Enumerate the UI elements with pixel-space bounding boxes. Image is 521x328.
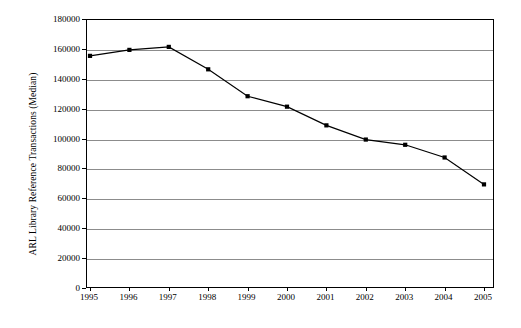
x-axis-tick-label: 2000	[266, 293, 306, 302]
data-point-marker	[88, 54, 92, 58]
y-axis-tick-label: 20000	[32, 254, 80, 263]
x-axis-tick-label: 2002	[345, 293, 385, 302]
chart-figure: ARL Library Reference Transactions (Medi…	[0, 0, 521, 328]
x-axis-tick-label: 1998	[187, 293, 227, 302]
x-axis-tick-label: 2004	[424, 293, 464, 302]
x-axis-tick-label: 2001	[305, 293, 345, 302]
y-axis-tick-label: 40000	[32, 224, 80, 233]
data-point-marker	[285, 105, 289, 109]
y-axis-tick-labels: 0200004000060000800001000001200001400001…	[30, 0, 80, 328]
y-axis-tick-label: 60000	[32, 194, 80, 203]
y-axis-tick-label: 80000	[32, 164, 80, 173]
y-axis-tick-label: 0	[32, 284, 80, 293]
series-markers	[88, 45, 486, 187]
x-axis-tick-label: 2003	[384, 293, 424, 302]
data-point-marker	[167, 45, 171, 49]
data-point-marker	[443, 155, 447, 159]
y-axis-tick-mark	[82, 288, 86, 289]
x-axis-tick-label: 1996	[108, 293, 148, 302]
x-axis-tick-label: 2005	[463, 293, 503, 302]
y-axis-tick-label: 140000	[32, 74, 80, 83]
x-axis-tick-label: 1997	[148, 293, 188, 302]
plot-area	[86, 19, 494, 288]
series-polyline	[90, 47, 484, 184]
x-axis-tick-labels: 1995199619971998199920002001200220032004…	[86, 293, 494, 309]
y-axis-tick-label: 100000	[32, 134, 80, 143]
data-point-marker	[482, 182, 486, 186]
x-axis-tick-label: 1995	[69, 293, 109, 302]
y-axis-tick-label: 120000	[32, 104, 80, 113]
y-axis-tick-label: 180000	[32, 15, 80, 24]
data-point-marker	[127, 48, 131, 52]
data-point-marker	[364, 137, 368, 141]
data-series-line	[87, 20, 495, 289]
data-point-marker	[403, 143, 407, 147]
data-point-marker	[246, 94, 250, 98]
x-axis-tick-label: 1999	[227, 293, 267, 302]
data-point-marker	[324, 123, 328, 127]
data-point-marker	[206, 67, 210, 71]
y-axis-tick-label: 160000	[32, 44, 80, 53]
